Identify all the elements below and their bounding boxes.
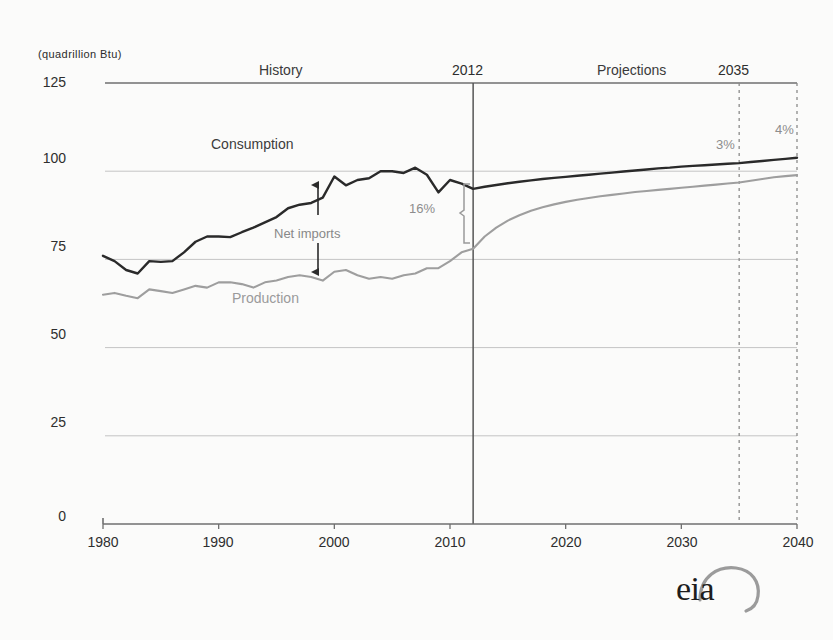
- gap-bracket-2012: [460, 184, 470, 243]
- chart-figure: (quadrillion Btu) 125 100 75 50 25 0 198…: [0, 0, 833, 640]
- chart-plot-area: [0, 0, 833, 640]
- series-line-consumption: [103, 158, 797, 274]
- eia-logo: eia: [672, 568, 764, 614]
- vertical-reference-lines: [473, 83, 797, 524]
- eia-logo-text: eia: [676, 570, 714, 608]
